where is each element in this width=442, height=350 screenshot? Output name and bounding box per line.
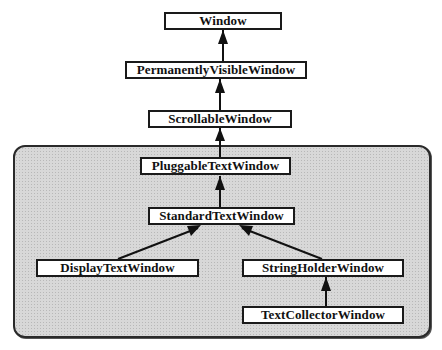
node-standard-text-window: StandardTextWindow — [148, 207, 295, 225]
node-label: TextCollectorWindow — [261, 307, 385, 323]
node-window: Window — [164, 12, 282, 30]
node-label: StandardTextWindow — [159, 208, 284, 224]
node-scrollable-window: ScrollableWindow — [148, 110, 292, 128]
node-label: ScrollableWindow — [168, 111, 272, 127]
node-label: PermanentlyVisibleWindow — [137, 62, 295, 78]
node-label: DisplayTextWindow — [60, 260, 174, 276]
edge-display-to-standard — [118, 228, 198, 259]
node-label: PluggableTextWindow — [152, 158, 280, 174]
node-display-text-window: DisplayTextWindow — [36, 259, 199, 277]
edge-stringholder-to-standard — [242, 228, 322, 259]
inheritance-edges — [0, 0, 442, 350]
node-pluggable-text-window: PluggableTextWindow — [140, 157, 291, 175]
node-permanently-visible-window: PermanentlyVisibleWindow — [125, 61, 307, 79]
node-string-holder-window: StringHolderWindow — [242, 259, 404, 277]
node-label: StringHolderWindow — [262, 260, 384, 276]
node-text-collector-window: TextCollectorWindow — [242, 306, 404, 324]
node-label: Window — [199, 13, 246, 29]
